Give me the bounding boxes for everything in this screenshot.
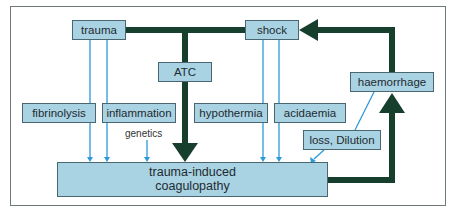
node-acidaemia: acidaemia (274, 103, 346, 123)
node-hypothermia: hypothermia (194, 103, 268, 123)
tic-line-2: coagulopathy (155, 180, 229, 193)
node-fibrinolysis: fibrinolysis (22, 103, 96, 123)
node-haemorrhage: haemorrhage (350, 72, 434, 92)
node-inflammation: inflammation (102, 103, 176, 123)
tic-line-1: trauma-induced (149, 166, 236, 179)
node-shock: shock (245, 20, 299, 40)
node-loss-dilution: loss, Dilution (303, 130, 381, 150)
node-trauma: trauma (72, 20, 126, 40)
node-atc: ATC (158, 62, 212, 82)
label-genetics: genetics (125, 128, 162, 139)
node-trauma-induced-coagulopathy: trauma-induced coagulopathy (57, 162, 328, 197)
